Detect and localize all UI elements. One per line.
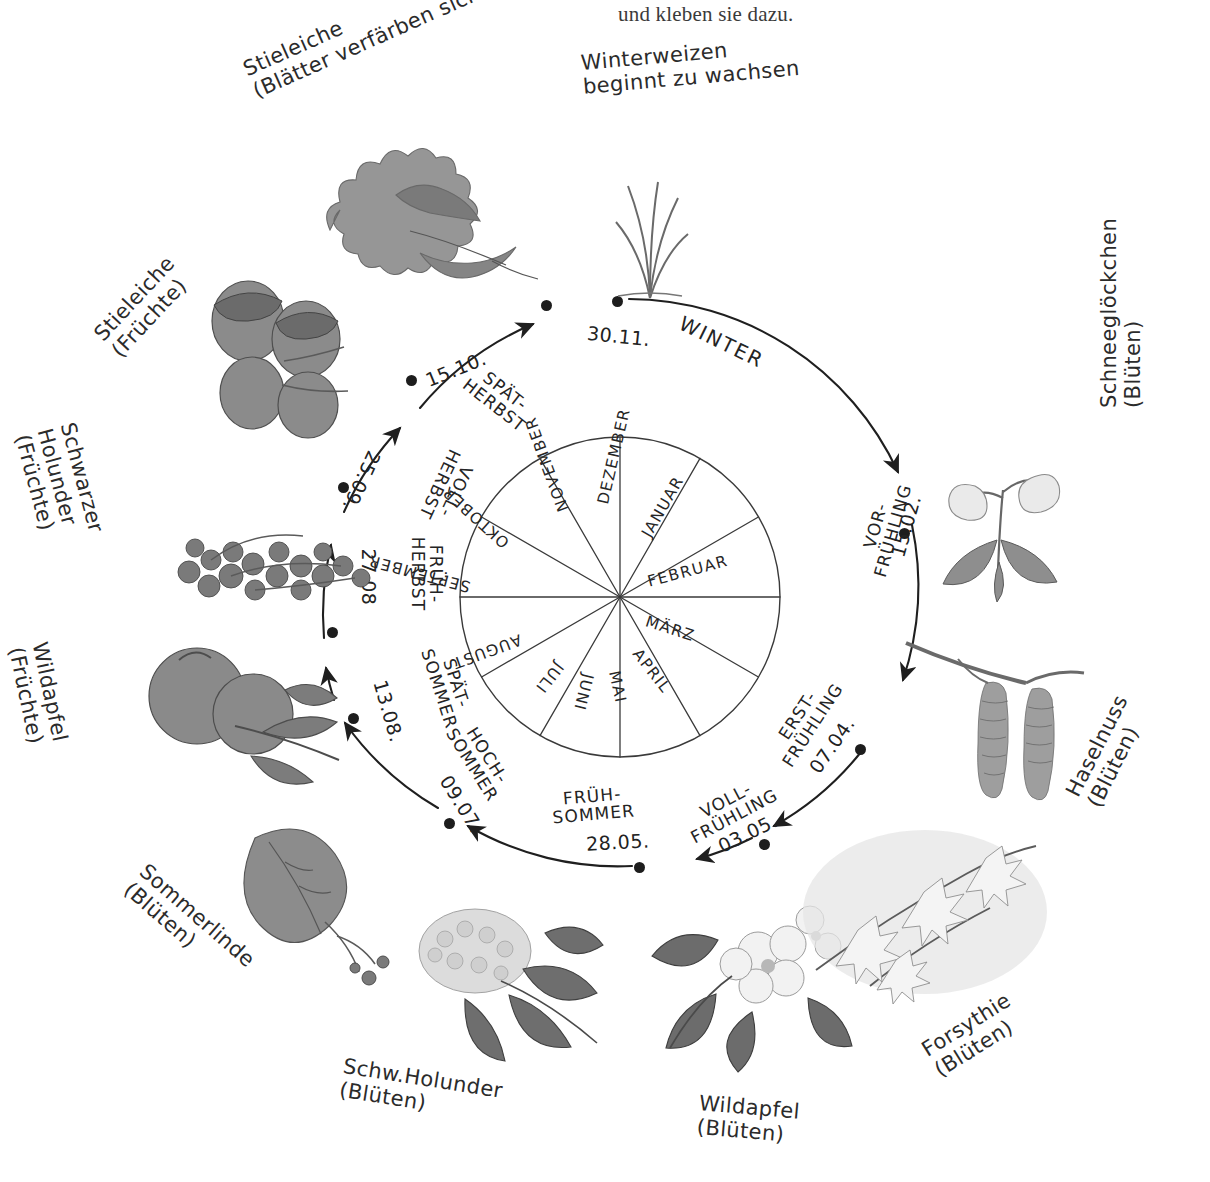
illustration-elder-blossoms — [405, 895, 635, 1070]
node-dot-28-05 — [634, 862, 645, 873]
illustration-winter-wheat — [600, 140, 700, 300]
illustration-elderberry-fruits — [155, 498, 380, 628]
node-dot-03-05 — [759, 839, 770, 850]
plant-label-schneegloeckchen: Schneeglöckchen (Blüten) — [1098, 218, 1145, 408]
plant-label-line-2: (Blüten) — [1122, 218, 1146, 408]
illustration-forsythia — [800, 820, 1050, 1005]
season-date-fruehsommer: 28.05. — [585, 829, 650, 854]
illustration-hazel-catkins — [900, 615, 1090, 825]
node-dot-15-10 — [406, 375, 417, 386]
node-dot-07-04 — [855, 744, 866, 755]
illustration-snowdrop — [925, 420, 1085, 605]
month-wheel-circle — [460, 437, 780, 757]
illustration-wildapple-fruits — [135, 630, 350, 810]
node-dot-09-07 — [444, 818, 455, 829]
illustration-linden-blossom — [225, 810, 415, 990]
plant-label-wildapfel-blueten: Wildapfel (Blüten) — [696, 1092, 801, 1148]
illustration-acorns — [190, 265, 360, 450]
plant-label-line-1: Schneeglöckchen — [1097, 218, 1121, 408]
phenology-wheel-figure: und kleben sie dazu. — [0, 0, 1210, 1182]
arc-winter — [629, 299, 898, 472]
month-spokes — [460, 437, 780, 757]
